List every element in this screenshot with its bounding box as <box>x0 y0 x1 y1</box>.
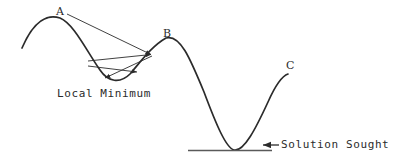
solution-sought-caption: Solution Sought <box>281 139 389 150</box>
local-minimum-caption: Local Minimum <box>57 88 151 99</box>
optimization-landscape-figure: A B C Local Minimum Solution Sought <box>0 0 408 166</box>
objective-curve <box>22 17 288 150</box>
point-c-label: C <box>286 60 294 71</box>
peak-a-label: A <box>56 6 64 17</box>
peak-b-label: B <box>163 28 171 39</box>
arrow-from-peak-a <box>67 14 151 55</box>
